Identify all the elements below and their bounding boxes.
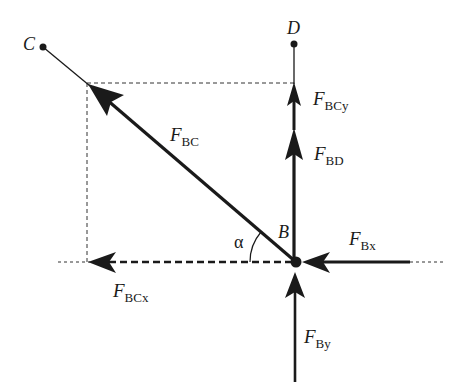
label-fbx: FBx bbox=[349, 228, 376, 250]
label-fbd: FBD bbox=[314, 143, 344, 165]
force-diagram-canvas bbox=[0, 0, 472, 392]
label-fby-symbol: F bbox=[304, 326, 316, 347]
force-fbc-arrow bbox=[92, 87, 296, 262]
member-bc-thin bbox=[43, 47, 90, 86]
angle-alpha-arc bbox=[250, 232, 261, 262]
label-fbd-subscript: BD bbox=[326, 153, 344, 168]
point-c-label: C bbox=[23, 34, 35, 55]
angle-alpha-label: α bbox=[234, 232, 243, 253]
point-c-dot bbox=[40, 44, 47, 51]
label-fbd-symbol: F bbox=[314, 143, 326, 164]
label-fbcy: FBCy bbox=[313, 88, 348, 110]
point-d-dot bbox=[291, 41, 298, 48]
label-fbx-subscript: Bx bbox=[361, 238, 376, 253]
label-fbc-symbol: F bbox=[170, 124, 182, 145]
component-construction-lines bbox=[58, 83, 445, 262]
label-fbcx-symbol: F bbox=[113, 280, 125, 301]
label-fbcx: FBCx bbox=[113, 280, 148, 302]
label-fbc: FBC bbox=[170, 124, 199, 146]
point-d-label: D bbox=[287, 18, 300, 39]
label-fbc-subscript: BC bbox=[182, 134, 199, 149]
label-fbcy-symbol: F bbox=[313, 88, 325, 109]
label-fby: FBy bbox=[304, 326, 331, 348]
point-b-label: B bbox=[278, 222, 289, 243]
label-fbx-symbol: F bbox=[349, 228, 361, 249]
label-fbcx-subscript: BCx bbox=[125, 290, 149, 305]
joint-b-dot bbox=[291, 257, 302, 268]
label-fby-subscript: By bbox=[316, 336, 331, 351]
label-fbcy-subscript: BCy bbox=[325, 98, 349, 113]
